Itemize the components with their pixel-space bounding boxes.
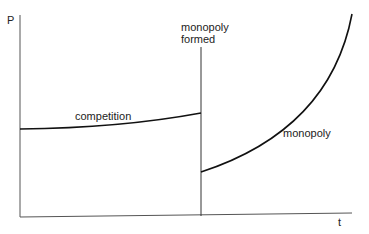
- competition-label: competition: [75, 110, 131, 123]
- monopoly-label: monopoly: [283, 127, 331, 140]
- monopoly-curve: [201, 14, 352, 172]
- event-label-line2: formed: [181, 33, 215, 46]
- x-axis-label: t: [338, 216, 341, 229]
- y-axis-label: P: [7, 14, 14, 27]
- x-axis: [20, 213, 352, 217]
